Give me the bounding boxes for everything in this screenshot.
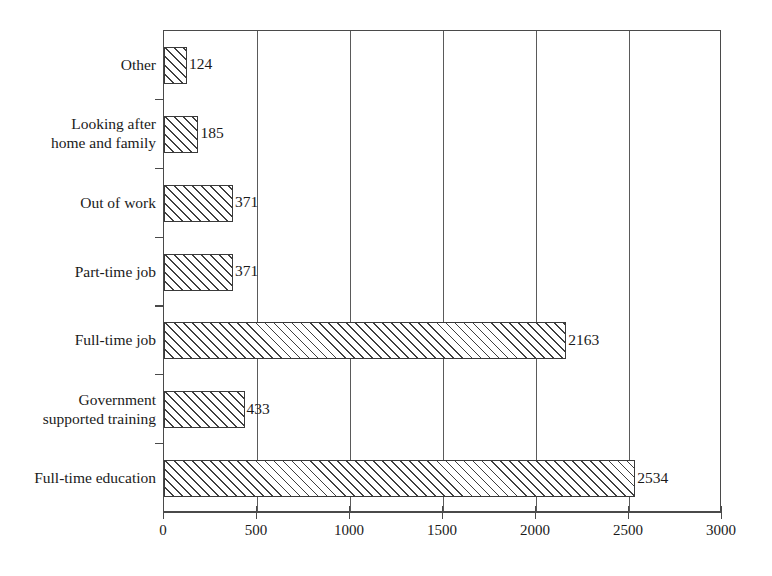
x-axis-tick <box>721 506 722 519</box>
bar-chart: 050010001500200025003000 OtherLooking af… <box>0 0 772 576</box>
x-axis-tick <box>442 506 443 519</box>
y-axis-tick <box>155 168 164 169</box>
category-label: Full-time job <box>0 330 156 349</box>
x-axis-tick <box>163 506 164 519</box>
bar <box>164 322 566 359</box>
x-axis-tick <box>256 506 257 519</box>
bar <box>164 254 233 291</box>
x-axis-tick <box>349 506 350 519</box>
category-label: Part-time job <box>0 262 156 281</box>
category-label: Looking after home and family <box>0 114 156 152</box>
category-label: Out of work <box>0 193 156 212</box>
bar-value-label: 2534 <box>637 469 668 487</box>
x-axis-tick-label: 500 <box>216 521 296 539</box>
bar-value-label: 185 <box>200 124 223 142</box>
y-axis-tick <box>155 374 164 375</box>
y-axis-tick <box>155 443 164 444</box>
gridline <box>536 31 537 511</box>
category-label: Other <box>0 55 156 74</box>
bar-value-label: 2163 <box>568 331 599 349</box>
bar <box>164 116 198 153</box>
bar <box>164 460 635 497</box>
y-axis-tick <box>155 237 164 238</box>
bar-value-label: 371 <box>235 262 258 280</box>
y-axis-tick <box>155 305 164 306</box>
category-label: Full-time education <box>0 468 156 487</box>
y-axis-tick <box>155 99 164 100</box>
bar <box>164 391 245 428</box>
x-axis-tick-label: 0 <box>123 521 203 539</box>
gridline <box>350 31 351 511</box>
bar-value-label: 124 <box>189 55 212 73</box>
x-axis-tick-label: 1500 <box>402 521 482 539</box>
x-axis-tick-label: 2000 <box>495 521 575 539</box>
category-label: Government supported training <box>0 390 156 428</box>
x-axis-tick-label: 1000 <box>309 521 389 539</box>
gridline <box>629 31 630 511</box>
gridline <box>443 31 444 511</box>
bar-value-label: 371 <box>235 193 258 211</box>
x-axis-tick <box>535 506 536 519</box>
bar <box>164 47 187 84</box>
x-axis-tick-label: 3000 <box>681 521 761 539</box>
bar-value-label: 433 <box>247 400 270 418</box>
bar <box>164 185 233 222</box>
x-axis-tick <box>628 506 629 519</box>
x-axis-tick-label: 2500 <box>588 521 668 539</box>
